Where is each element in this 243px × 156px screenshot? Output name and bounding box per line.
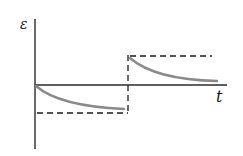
decay-curve-positive bbox=[130, 58, 217, 81]
y-axis-label-epsilon: ε bbox=[20, 17, 28, 31]
decay-curve-negative bbox=[36, 86, 124, 109]
x-axis-label-t: t bbox=[216, 89, 222, 105]
step-response-diagram bbox=[0, 0, 243, 156]
